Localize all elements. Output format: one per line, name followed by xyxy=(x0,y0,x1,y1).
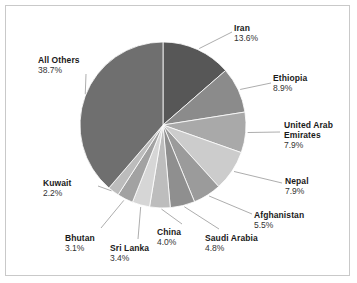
leader-line xyxy=(101,200,124,228)
leader-line xyxy=(234,171,282,183)
slice-label-sri-lanka-name: Sri Lanka xyxy=(110,243,149,253)
slice-label-kuwait: Kuwait 2.2% xyxy=(43,178,71,198)
pie-slices xyxy=(80,42,246,208)
slice-label-bhutan: Bhutan 3.1% xyxy=(65,233,95,253)
leader-line xyxy=(138,207,141,239)
leader-line xyxy=(85,74,86,94)
slice-label-nepal: Nepal 7.9% xyxy=(285,176,309,196)
slice-label-china: China 4.0% xyxy=(157,227,181,247)
chart-frame: Iran 13.6% Ethiopia 8.9% United Arab Emi… xyxy=(5,5,350,276)
slice-label-ethiopia-value: 8.9% xyxy=(273,83,307,93)
slice-label-afghanistan-name: Afghanistan xyxy=(254,210,304,220)
slice-label-afghanistan: Afghanistan 5.5% xyxy=(254,210,304,230)
slice-label-iran: Iran 13.6% xyxy=(234,23,258,43)
slice-label-afghanistan-value: 5.5% xyxy=(254,220,304,230)
slice-label-nepal-name: Nepal xyxy=(285,176,309,186)
slice-label-all-others: All Others 38.7% xyxy=(38,55,80,75)
slice-label-all-others-value: 38.7% xyxy=(38,65,80,75)
leader-line xyxy=(184,207,219,229)
slice-label-bhutan-name: Bhutan xyxy=(65,233,95,243)
slice-label-uae-name: United Arab xyxy=(284,120,333,130)
slice-label-iran-name: Iran xyxy=(234,23,258,33)
slice-label-china-value: 4.0% xyxy=(157,237,181,247)
slice-label-saudi-arabia-value: 4.8% xyxy=(205,243,258,253)
slice-label-sri-lanka: Sri Lanka 3.4% xyxy=(110,243,149,263)
slice-label-ethiopia-name: Ethiopia xyxy=(273,73,307,83)
leader-line xyxy=(240,83,271,89)
slice-label-uae-value: 7.9% xyxy=(284,140,333,150)
slice-label-united-arab-emirates: United Arab Emirates 7.9% xyxy=(284,120,333,150)
slice-label-nepal-value: 7.9% xyxy=(285,186,309,196)
slice-label-all-others-name: All Others xyxy=(38,55,80,65)
slice-label-saudi-arabia: Saudi Arabia 4.8% xyxy=(205,233,258,253)
slice-label-sri-lanka-value: 3.4% xyxy=(110,253,149,263)
slice-label-ethiopia: Ethiopia 8.9% xyxy=(273,73,307,93)
pie-chart: Iran 13.6% Ethiopia 8.9% United Arab Emi… xyxy=(6,6,351,277)
slice-label-uae-name2: Emirates xyxy=(284,130,333,140)
leader-line xyxy=(199,32,232,49)
slice-label-kuwait-value: 2.2% xyxy=(43,188,71,198)
slice-label-saudi-arabia-name: Saudi Arabia xyxy=(205,233,258,243)
slice-label-iran-value: 13.6% xyxy=(234,33,258,43)
slice-label-kuwait-name: Kuwait xyxy=(43,178,71,188)
leader-line xyxy=(248,132,280,133)
slice-label-china-name: China xyxy=(157,227,181,237)
leader-line xyxy=(209,196,252,214)
leader-line xyxy=(161,209,182,224)
slice-label-bhutan-value: 3.1% xyxy=(65,243,95,253)
